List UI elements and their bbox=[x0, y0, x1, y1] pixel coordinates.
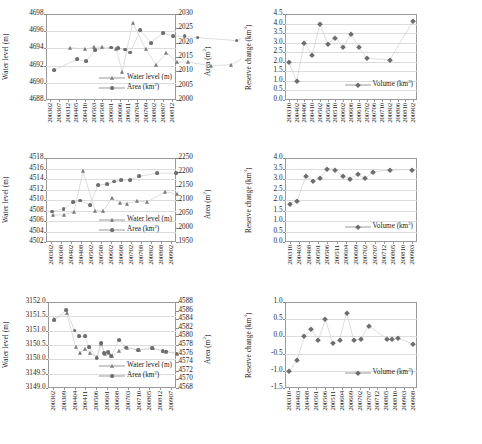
x-tick-label: 200310 bbox=[286, 391, 293, 411]
x-tick-mark bbox=[343, 100, 344, 102]
legend-key bbox=[99, 362, 125, 369]
x-tick-label: 200608 bbox=[114, 391, 121, 411]
y-tick-label: 4514 bbox=[29, 175, 43, 182]
x-tick-mark bbox=[318, 242, 319, 244]
legend-key bbox=[345, 81, 371, 88]
x-tick-mark bbox=[390, 100, 391, 102]
legend-key bbox=[99, 372, 125, 379]
x-tick-mark bbox=[369, 388, 370, 390]
x-tick-label: 200810 bbox=[399, 245, 406, 265]
data-point bbox=[105, 182, 109, 186]
x-tick-mark bbox=[377, 388, 378, 390]
y2-tick-label: 2050 bbox=[179, 210, 193, 217]
tri-marker bbox=[110, 218, 114, 222]
x-tick-mark bbox=[360, 388, 361, 390]
y-tick-mark bbox=[283, 388, 286, 389]
y-tick-mark bbox=[44, 242, 47, 243]
x-tick-mark bbox=[68, 100, 69, 102]
y-axis-title-left: Reserve change (km3) bbox=[243, 156, 253, 244]
x-tick-label: 200403 bbox=[295, 391, 302, 411]
x-tick-mark bbox=[53, 388, 54, 390]
x-tick-mark bbox=[412, 242, 413, 244]
x-tick-label: 200610 bbox=[355, 103, 362, 123]
chart-legend: Volume (km3) bbox=[345, 368, 413, 379]
data-point bbox=[93, 48, 97, 52]
y-tick-label: 0.5 bbox=[274, 316, 283, 323]
data-point bbox=[73, 329, 77, 333]
y-tick-label: -0.5 bbox=[271, 350, 282, 357]
x-tick-label: 200609 bbox=[352, 245, 359, 265]
y2-tick-label: 4580 bbox=[179, 333, 193, 340]
y-tick-label: 4694 bbox=[29, 45, 43, 52]
y-tick-mark bbox=[44, 100, 47, 101]
y-tick-label: 2.5 bbox=[274, 186, 283, 193]
chart-panel-a: Water level (m)Area (m2)4698469646944692… bbox=[0, 0, 241, 148]
chart-legend: Water level (m)Area (km2) bbox=[99, 362, 172, 382]
x-tick-label: 200707 bbox=[371, 245, 378, 265]
x-tick-label: 200902 bbox=[168, 245, 175, 265]
x-tick-mark bbox=[75, 388, 76, 390]
data-point bbox=[75, 57, 79, 61]
x-tick-mark bbox=[289, 100, 290, 102]
data-point bbox=[64, 308, 68, 312]
y-tick-label: 4512 bbox=[29, 186, 43, 193]
circle-marker bbox=[110, 86, 114, 90]
x-tick-mark bbox=[61, 242, 62, 244]
x-tick-label: 200601 bbox=[108, 103, 115, 123]
x-tick-mark bbox=[375, 242, 376, 244]
plot-area: 4.54.03.53.02.52.01.51.00.50.02003102004… bbox=[285, 14, 417, 100]
circle-marker bbox=[110, 374, 114, 378]
x-tick-label: 200704 bbox=[134, 103, 141, 123]
data-point bbox=[101, 209, 105, 213]
chart-panel-d: Reserve change (km3)4.03.53.02.52.01.51.… bbox=[241, 148, 482, 290]
y-tick-mark bbox=[283, 100, 286, 101]
data-point bbox=[196, 36, 200, 40]
x-tick-label: 200703 bbox=[125, 391, 132, 411]
x-tick-label: 200710 bbox=[135, 391, 142, 411]
x-tick-mark bbox=[382, 100, 383, 102]
legend-item: Area (km2) bbox=[99, 371, 172, 380]
data-point bbox=[183, 34, 187, 38]
y-axis-title-right: Area (m2) bbox=[202, 162, 212, 246]
x-tick-label: 200707 bbox=[365, 391, 372, 411]
x-tick-mark bbox=[405, 100, 406, 102]
x-tick-mark bbox=[131, 242, 132, 244]
x-tick-mark bbox=[328, 100, 329, 102]
x-tick-mark bbox=[146, 100, 147, 102]
x-tick-label: 200503 bbox=[90, 103, 97, 123]
legend-label: Area (km2) bbox=[127, 83, 159, 92]
legend-label: Volume (km3) bbox=[373, 80, 413, 89]
x-tick-mark bbox=[309, 242, 310, 244]
x-tick-mark bbox=[111, 242, 112, 244]
data-point bbox=[175, 60, 179, 64]
legend-key bbox=[99, 84, 125, 91]
data-point bbox=[175, 192, 179, 196]
data-point bbox=[78, 199, 82, 203]
x-tick-label: 200501 bbox=[315, 245, 322, 265]
y-tick-label: 2.5 bbox=[274, 49, 283, 56]
chart-legend: Water level (m)Area (km2) bbox=[99, 74, 172, 94]
x-tick-label: 200310 bbox=[285, 103, 292, 123]
y2-tick-label: 4576 bbox=[179, 350, 193, 357]
x-tick-label: 200302 bbox=[48, 245, 55, 265]
y-tick-label: 4696 bbox=[29, 28, 43, 35]
y-tick-label: 4502 bbox=[29, 238, 43, 245]
x-tick-label: 200508 bbox=[99, 103, 106, 123]
x-tick-label: 200604 bbox=[343, 245, 350, 265]
x-tick-label: 200709 bbox=[142, 103, 149, 123]
x-tick-label: 200812 bbox=[168, 103, 175, 123]
x-tick-mark bbox=[128, 388, 129, 390]
x-tick-mark bbox=[101, 242, 102, 244]
data-point bbox=[68, 45, 72, 49]
data-point bbox=[74, 345, 78, 349]
y-tick-label: 3151.5 bbox=[26, 313, 46, 320]
x-tick-label: 200601 bbox=[103, 391, 110, 411]
data-point bbox=[110, 354, 114, 358]
data-point bbox=[81, 169, 85, 173]
plot-area: 4698469646944692469046882030202520202015… bbox=[46, 14, 176, 100]
legend-key bbox=[345, 369, 371, 376]
chart-panel-e: Water level (m)Area (m2)3152.03151.53151… bbox=[0, 290, 241, 444]
data-point bbox=[161, 31, 165, 35]
y2-tick-label: 1950 bbox=[179, 238, 193, 245]
x-tick-label: 200903 bbox=[409, 245, 416, 265]
